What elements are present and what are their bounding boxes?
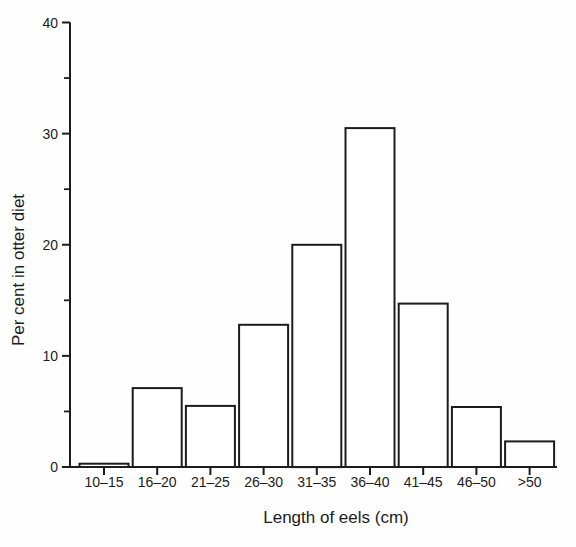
y-tick-label: 40 [42,15,58,31]
bar-16-20 [133,388,182,467]
x-tick-label: 21–25 [191,474,230,490]
bar-31-35 [292,245,341,467]
bar-26-30 [239,325,288,467]
bar--50 [505,441,554,467]
x-tick-label: 46–50 [457,474,496,490]
x-tick-label: >50 [518,474,542,490]
x-tick-label: 36–40 [351,474,390,490]
y-tick-label: 0 [50,459,58,475]
x-tick-label: 31–35 [297,474,336,490]
x-axis-title: Length of eels (cm) [263,508,409,527]
bar-46-50 [452,407,501,467]
eel-length-histogram-figure: 01020304010–1516–2021–2526–3031–3536–404… [0,0,576,547]
bar-21-25 [186,406,235,467]
x-tick-label: 26–30 [244,474,283,490]
y-tick-label: 10 [42,348,58,364]
y-axis-title: Per cent in otter diet [9,194,28,346]
bars-group [80,128,555,467]
x-tick-label: 10–15 [85,474,124,490]
y-tick-label: 30 [42,126,58,142]
chart-canvas: 01020304010–1516–2021–2526–3031–3536–404… [0,0,576,547]
x-tick-label: 41–45 [404,474,443,490]
bar-41-45 [399,304,448,467]
x-tick-label: 16–20 [138,474,177,490]
bar-36-40 [346,128,395,467]
y-tick-label: 20 [42,237,58,253]
